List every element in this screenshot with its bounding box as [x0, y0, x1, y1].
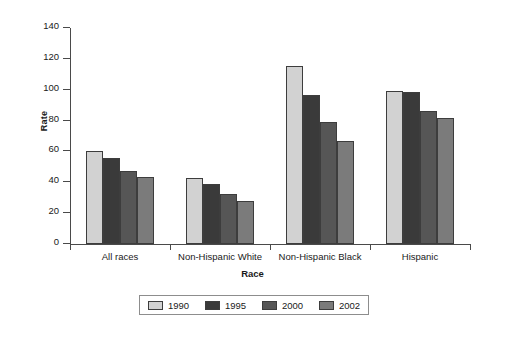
bar-group	[286, 28, 354, 244]
bar	[437, 118, 454, 245]
plot-area: 020406080100120140	[70, 28, 470, 244]
x-axis-tick	[270, 244, 271, 250]
bar	[220, 194, 237, 244]
y-axis-line	[70, 28, 71, 245]
bar	[237, 201, 254, 244]
y-axis-tick-label: 20	[48, 205, 59, 216]
bar-chart: Rate 020406080100120140 All racesNon-His…	[0, 0, 505, 337]
legend-swatch	[205, 301, 220, 310]
bar	[103, 158, 120, 244]
y-axis-tick-label: 0	[54, 236, 59, 247]
legend-label: 2000	[282, 300, 303, 311]
bar	[137, 177, 154, 244]
y-axis-tick: 40	[63, 181, 70, 182]
bar	[403, 92, 420, 244]
legend-swatch	[262, 301, 277, 310]
y-axis-tick: 20	[63, 212, 70, 213]
y-axis-tick: 0	[63, 243, 70, 244]
y-axis-tick-label: 60	[48, 143, 59, 154]
y-axis-tick-label: 140	[43, 20, 59, 31]
bar-group	[386, 28, 454, 244]
x-axis-title: Race	[0, 268, 505, 279]
bar	[303, 95, 320, 244]
legend-item: 2000	[262, 300, 303, 311]
x-axis-tick	[170, 244, 171, 250]
y-axis-tick: 100	[63, 89, 70, 90]
bar	[120, 171, 137, 244]
y-axis-tick: 140	[63, 27, 70, 28]
bar	[420, 111, 437, 244]
y-axis-tick: 120	[63, 58, 70, 59]
y-axis-tick-label: 120	[43, 51, 59, 62]
bar-group	[186, 28, 254, 244]
legend-item: 1995	[205, 300, 246, 311]
legend-item: 1990	[148, 300, 189, 311]
y-axis-tick-label: 100	[43, 82, 59, 93]
bar	[203, 184, 220, 244]
bar	[286, 66, 303, 244]
legend-label: 1995	[225, 300, 246, 311]
bar	[386, 91, 403, 244]
legend-item: 2002	[319, 300, 360, 311]
legend-swatch	[148, 301, 163, 310]
bar	[186, 178, 203, 244]
x-axis-tick	[470, 244, 471, 250]
y-axis-tick-label: 80	[48, 113, 59, 124]
bar	[337, 141, 354, 244]
legend-label: 1990	[168, 300, 189, 311]
legend-swatch	[319, 301, 334, 310]
y-axis-tick-label: 40	[48, 174, 59, 185]
bar	[320, 122, 337, 244]
legend-label: 2002	[339, 300, 360, 311]
y-axis-tick: 80	[63, 120, 70, 121]
x-axis-category-label: Non-Hispanic Black	[270, 251, 370, 262]
x-axis-category-label: Hispanic	[370, 251, 470, 262]
x-axis-category-label: All races	[70, 251, 170, 262]
chart-legend: 1990199520002002	[139, 295, 369, 315]
y-axis-tick: 60	[63, 150, 70, 151]
x-axis-tick	[70, 244, 71, 250]
x-axis-tick	[370, 244, 371, 250]
bar	[86, 151, 103, 244]
x-axis-category-label: Non-Hispanic White	[170, 251, 270, 262]
bar-group	[86, 28, 154, 244]
